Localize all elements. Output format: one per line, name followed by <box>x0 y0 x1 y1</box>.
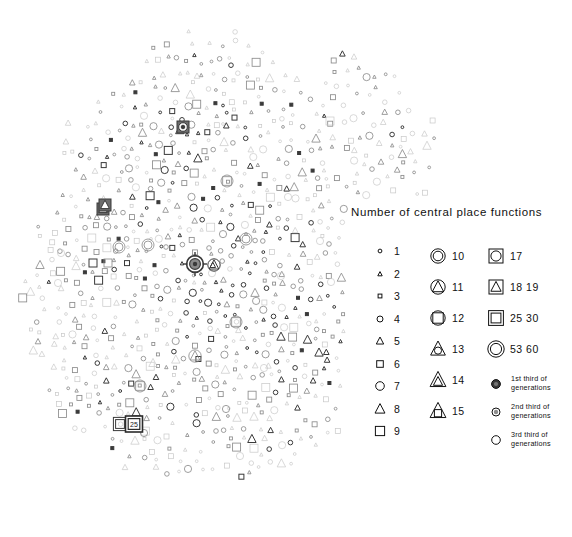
map-symbol <box>257 95 260 98</box>
map-symbol <box>330 135 336 140</box>
circle-in-triangle-icon <box>425 338 451 360</box>
map-symbol <box>190 169 198 177</box>
map-symbol <box>95 276 103 284</box>
map-symbol <box>277 332 285 340</box>
map-symbol <box>184 465 191 472</box>
map-symbol <box>116 177 121 182</box>
map-symbol <box>191 42 194 45</box>
map-symbol <box>214 102 217 105</box>
map-symbol <box>203 312 206 315</box>
map-symbol <box>215 195 220 200</box>
map-symbol <box>255 321 258 324</box>
map-symbol <box>71 150 74 153</box>
map-symbol <box>246 260 249 263</box>
legend-entry: 12 <box>425 302 465 333</box>
map-symbol <box>433 137 436 140</box>
map-symbol <box>398 91 401 94</box>
map-symbol <box>363 162 366 165</box>
map-symbol <box>356 92 359 95</box>
map-symbol <box>315 320 318 323</box>
map-symbol <box>248 147 254 152</box>
square-in-circle-icon <box>425 307 451 329</box>
map-symbol <box>260 306 267 313</box>
map-symbol <box>264 230 267 233</box>
map-symbol <box>335 262 340 267</box>
map-symbol <box>287 394 290 397</box>
map-symbol <box>250 444 258 452</box>
map-symbol <box>193 100 201 108</box>
map-symbol <box>205 299 212 306</box>
legend-column-2: 101112131415 <box>425 240 465 426</box>
map-symbol <box>228 267 233 272</box>
map-symbol <box>87 393 92 398</box>
map-symbol <box>317 295 323 300</box>
map-symbol <box>126 412 129 415</box>
map-symbol <box>291 352 294 355</box>
map-symbol <box>214 429 219 434</box>
map-symbol <box>372 123 377 128</box>
map-symbol <box>112 258 115 261</box>
map-symbol <box>340 205 347 212</box>
map-symbol <box>53 231 58 236</box>
map-symbol <box>312 422 317 427</box>
map-symbol <box>300 242 306 247</box>
map-symbol <box>194 413 199 418</box>
map-symbol <box>150 310 153 313</box>
map-symbol <box>289 333 297 341</box>
map-symbol <box>194 154 202 162</box>
map-symbol <box>192 81 195 84</box>
map-symbol <box>118 129 121 132</box>
map-symbol <box>232 160 237 165</box>
map-symbol <box>174 366 177 369</box>
map-symbol <box>160 245 163 248</box>
map-symbol <box>104 223 111 230</box>
map-symbol <box>130 215 135 220</box>
map-symbol <box>206 87 211 92</box>
legend-entry: 18 19 <box>483 271 551 302</box>
map-symbol <box>202 468 205 471</box>
map-symbol <box>328 382 331 385</box>
legend-entry-label: 2 <box>394 268 400 280</box>
filled-dark-circle-icon <box>483 373 509 395</box>
legend-entry: 53 60 <box>483 333 551 364</box>
map-symbol <box>144 103 147 106</box>
map-symbol <box>284 186 290 191</box>
map-symbol <box>276 226 279 229</box>
map-symbol <box>347 84 350 87</box>
map-symbol <box>243 136 248 141</box>
map-symbol <box>326 273 331 278</box>
map-symbol <box>66 227 71 232</box>
map-symbol <box>225 346 228 349</box>
map-symbol <box>233 443 241 451</box>
map-symbol <box>271 60 274 63</box>
map-symbol <box>204 205 211 212</box>
map-symbol <box>139 259 142 262</box>
map-symbol <box>322 367 325 370</box>
map-symbol <box>326 294 329 297</box>
map-symbol <box>83 335 89 340</box>
map-symbol <box>207 348 212 353</box>
map-symbol <box>125 155 130 160</box>
map-symbol <box>212 240 215 243</box>
map-symbol <box>240 335 246 340</box>
map-symbol <box>255 351 258 354</box>
map-symbol <box>233 388 236 391</box>
map-symbol <box>229 213 232 216</box>
map-symbol <box>221 208 224 211</box>
map-symbol <box>248 471 251 474</box>
map-symbol <box>159 403 162 406</box>
map-symbol <box>260 102 263 105</box>
map-symbol <box>102 260 105 263</box>
map-symbol <box>145 334 148 337</box>
map-symbol <box>363 192 370 199</box>
map-symbol <box>266 342 271 347</box>
map-symbol <box>174 55 179 60</box>
map-symbol <box>279 140 282 143</box>
map-symbol <box>173 373 176 376</box>
map-symbol <box>50 240 55 245</box>
legend-generation-label: 1st third ofgenerations <box>511 375 551 392</box>
map-symbol <box>239 474 244 479</box>
map-symbol <box>39 351 45 356</box>
legend-entry: 14 <box>425 364 465 395</box>
legend-entry-label: 5 <box>394 335 400 347</box>
